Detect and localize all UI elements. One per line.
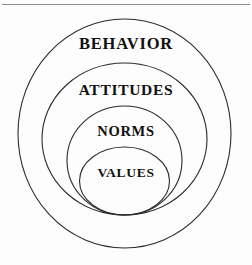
figure-canvas: BEHAVIOR ATTITUDES NORMS VALUES — [0, 0, 252, 265]
ring-label-behavior: BEHAVIOR — [0, 36, 252, 53]
ring-ellipse-values — [80, 147, 170, 215]
ring-label-values: VALUES — [0, 166, 252, 180]
ring-label-attitudes: ATTITUDES — [0, 82, 252, 98]
ring-label-norms: NORMS — [0, 124, 252, 139]
